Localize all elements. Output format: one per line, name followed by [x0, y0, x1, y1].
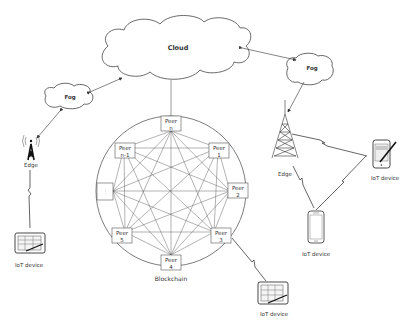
- architecture-diagram: Cloud Fog Fog Peer n: [0, 0, 406, 328]
- fog-left-label: Fog: [64, 94, 75, 101]
- blockchain-label: Blockchain: [155, 275, 188, 282]
- svg-text:1: 1: [217, 152, 221, 158]
- peer-3: Peer 3: [211, 228, 231, 243]
- iot-left-label: IoT device: [15, 262, 44, 268]
- svg-text:n: n: [169, 125, 173, 131]
- svg-text:5: 5: [120, 237, 124, 243]
- edge-right-tower-icon: Edge: [272, 100, 298, 178]
- svg-text:3: 3: [219, 237, 223, 243]
- svg-text:n-1: n-1: [121, 152, 130, 158]
- iot-right-tablet-label: IoT device: [371, 175, 400, 181]
- peer-4: Peer 4: [161, 255, 181, 270]
- peer-n-minus-1: Peer n-1: [115, 143, 135, 158]
- svg-text:Peer: Peer: [232, 185, 245, 191]
- iot-left-tablet-icon: IoT device: [15, 233, 45, 268]
- wireless-link-edge-phone: [293, 166, 314, 208]
- fog-right-node: Fog: [287, 53, 334, 85]
- iot-bottom-tablet-icon: IoT device: [258, 282, 289, 317]
- peer-n: Peer n: [161, 116, 181, 131]
- fog-right-edge-link: [288, 82, 304, 112]
- blockchain-network: Peer n Peer 1 Peer 2 Peer 3 Peer 4 Peer …: [96, 116, 248, 282]
- fog-left-node: Fog: [45, 83, 93, 109]
- svg-text:2: 2: [236, 192, 240, 198]
- peer-ellipsis: .....: [97, 183, 113, 200]
- fog-left-edge-link: [37, 111, 60, 138]
- edge-left-tower-icon: Edge: [23, 135, 40, 169]
- svg-text:.....: .....: [104, 189, 109, 195]
- fog-left-cloud-link: [90, 78, 122, 92]
- iot-right-phone-label: IoT device: [302, 251, 331, 257]
- wireless-link-tablet-phone: [316, 156, 366, 210]
- peer-2: Peer 2: [228, 183, 248, 198]
- cloud-label: Cloud: [168, 44, 189, 52]
- edge-left-label: Edge: [24, 162, 38, 169]
- wireless-link-edge-tablet: [292, 134, 367, 156]
- fog-right-label: Fog: [306, 65, 317, 72]
- wireless-link-left: [28, 170, 31, 228]
- edge-right-label: Edge: [278, 171, 292, 178]
- svg-text:Peer: Peer: [165, 118, 178, 124]
- wireless-link-peer-iot: [232, 238, 266, 281]
- cloud-fog-right-link: [242, 48, 296, 60]
- svg-text:Peer: Peer: [213, 145, 226, 151]
- svg-text:Peer: Peer: [215, 230, 228, 236]
- svg-text:Peer: Peer: [119, 145, 132, 151]
- iot-right-tablet-icon: IoT device: [371, 140, 400, 181]
- iot-right-phone-icon: IoT device: [302, 211, 331, 257]
- svg-text:4: 4: [169, 264, 173, 270]
- svg-text:Peer: Peer: [116, 230, 129, 236]
- peer-5: Peer 5: [112, 228, 132, 243]
- svg-text:Peer: Peer: [165, 257, 178, 263]
- iot-bottom-label: IoT device: [260, 311, 289, 317]
- peer-1: Peer 1: [209, 143, 229, 158]
- cloud-node: Cloud: [102, 16, 251, 80]
